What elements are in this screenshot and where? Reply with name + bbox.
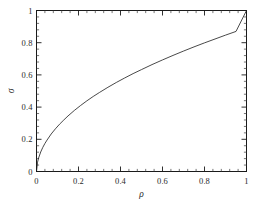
axes-frame (37, 11, 247, 172)
y-tick-label: 0.8 (22, 38, 33, 47)
x-major-ticks (37, 11, 247, 172)
y-tick-label: 0.6 (22, 71, 33, 80)
x-tick-label: 0 (34, 177, 38, 186)
plot-frame (37, 11, 247, 172)
x-tick-label: 0.4 (115, 177, 126, 186)
x-axis-label: ρ (139, 189, 144, 199)
x-tick-label: 0.2 (73, 177, 84, 186)
data-series-line (37, 11, 247, 172)
x-tick-label: 0.6 (157, 177, 168, 186)
y-tick-label: 1 (28, 6, 32, 15)
y-tick-label: 0.4 (22, 103, 33, 112)
y-tick-label: 0 (28, 167, 32, 176)
x-tick-label: 0.8 (199, 177, 210, 186)
chart-figure: 00.20.40.60.81 00.20.40.60.81 ρ σ (0, 0, 261, 206)
x-minor-ticks (45, 11, 238, 172)
plot-canvas (0, 0, 261, 206)
x-tick-label: 1 (244, 177, 248, 186)
y-tick-label: 0.2 (22, 135, 33, 144)
y-major-ticks (37, 11, 247, 172)
y-axis-label: σ (6, 89, 16, 94)
